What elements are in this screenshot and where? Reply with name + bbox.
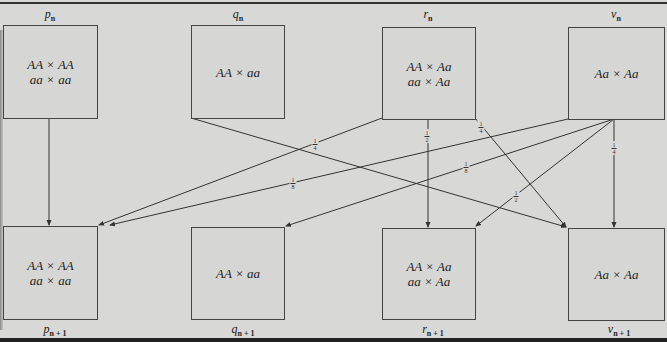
genotype-line: Aa × Aa — [595, 66, 639, 81]
label-p-n1: pn + 1 — [43, 322, 66, 338]
box-p-n1: AA × AA aa × aa — [3, 226, 98, 320]
genotype-line: AA × AA — [27, 57, 74, 72]
genotype-line: Aa × Aa — [595, 267, 639, 282]
edge-label-v-to-r: 12 — [513, 189, 520, 203]
edge-q-to-v — [191, 118, 566, 227]
label-v-n1: vn + 1 — [608, 322, 630, 338]
genotype-line: AA × aa — [216, 266, 260, 281]
box-r-n1: AA × Aa aa × Aa — [382, 228, 476, 320]
box-q-n: AA × aa — [191, 25, 285, 119]
genotype-line: AA × Aa — [406, 59, 451, 74]
label-v-n: vn — [611, 7, 621, 23]
box-r-n: AA × Aa aa × Aa — [382, 27, 476, 120]
mating-transition-diagram: pn qn rn vn AA × AA aa × aa AA × aa AA ×… — [0, 0, 667, 342]
label-r-n: rn — [423, 7, 432, 23]
edge-label-v-to-q: 18 — [463, 160, 470, 174]
edge-r-to-v — [475, 118, 566, 227]
genotype-line: aa × Aa — [408, 74, 450, 89]
box-p-n: AA × AA aa × aa — [3, 25, 98, 119]
genotype-line: aa × aa — [30, 273, 71, 288]
box-v-n1: Aa × Aa — [568, 228, 665, 321]
edge-label-r-to-r: 12 — [424, 129, 431, 143]
label-q-n: qn — [233, 7, 243, 23]
box-v-n: Aa × Aa — [568, 27, 665, 120]
label-p-n: pn — [45, 7, 55, 23]
genotype-line: AA × AA — [27, 258, 74, 273]
transition-arrows — [0, 0, 667, 342]
edge-label-v-to-v: 14 — [611, 141, 618, 155]
edge-label-r-to-v: 14 — [478, 120, 485, 134]
genotype-line: aa × aa — [30, 72, 71, 87]
edge-label-r-to-p: 14 — [312, 137, 319, 151]
genotype-line: AA × aa — [216, 65, 260, 80]
edge-label-v-to-p: 18 — [290, 176, 297, 190]
box-q-n1: AA × aa — [191, 227, 285, 320]
genotype-line: AA × Aa — [406, 259, 451, 274]
label-q-n1: qn + 1 — [231, 322, 254, 338]
genotype-line: aa × Aa — [408, 274, 450, 289]
label-r-n1: rn + 1 — [422, 322, 444, 338]
